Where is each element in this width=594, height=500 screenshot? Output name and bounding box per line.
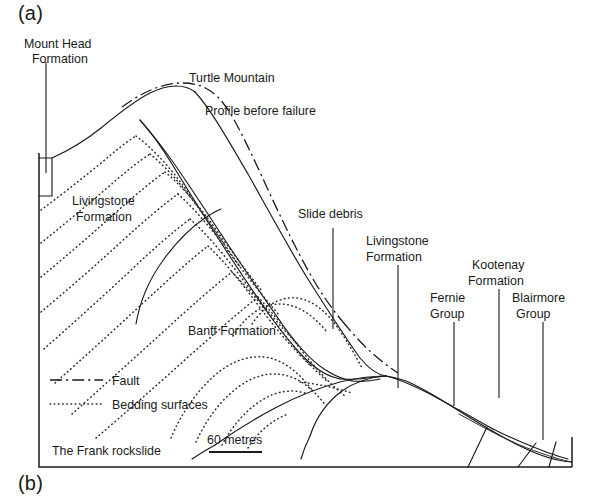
figure-caption: The Frank rockslide [52, 444, 161, 458]
cross-section-diagram: Mount Head Formation Turtle Mountain Pro… [0, 0, 594, 500]
legend-fault-label: Fault [112, 374, 140, 388]
label-slide-debris: Slide debris [298, 207, 363, 221]
label-banff-formation: Banff Formation [188, 324, 276, 338]
scale-bar-label: 60 metres [207, 433, 262, 447]
label-livingstone-left-line2: Formation [76, 210, 132, 224]
diagram-labels: Mount Head Formation Turtle Mountain Pro… [24, 37, 565, 338]
label-blairmore-line1: Blairmore [512, 291, 565, 305]
label-livingstone-right-line1: Livingstone [366, 234, 429, 248]
caption-and-scale: The Frank rockslide 60 metres [52, 433, 262, 458]
internal-contacts [136, 209, 572, 467]
label-turtle-mountain: Turtle Mountain [189, 71, 275, 85]
legend: Fault Bedding surfaces [50, 374, 208, 412]
label-profile-before-failure: Profile before failure [205, 104, 316, 118]
legend-bedding-label: Bedding surfaces [112, 398, 208, 412]
label-kootenay-line1: Kootenay [472, 258, 525, 272]
label-kootenay-line2: Formation [468, 274, 524, 288]
label-livingstone-right-line2: Formation [366, 250, 422, 264]
label-blairmore-line2: Group [516, 307, 551, 321]
label-fernie-line1: Fernie [430, 291, 465, 305]
label-livingstone-left-line1: Livingstone [72, 194, 135, 208]
label-fernie-line2: Group [430, 307, 465, 321]
label-mount-head-line1: Mount Head [24, 37, 92, 51]
label-mount-head-line2: Formation [32, 52, 88, 66]
figure-root: (a) (b) [0, 0, 594, 500]
